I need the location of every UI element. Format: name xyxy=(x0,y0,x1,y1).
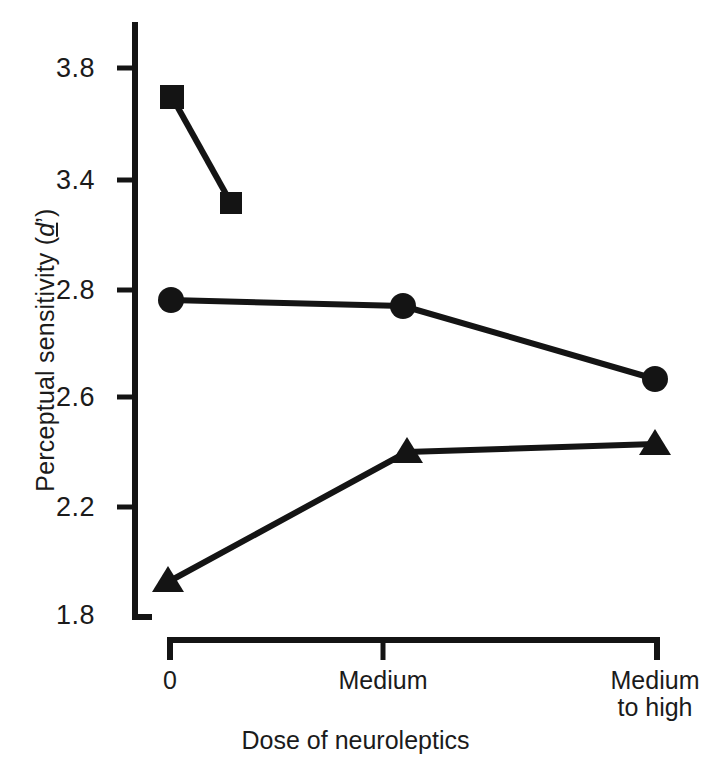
x-axis-title: Dose of neuroleptics xyxy=(0,726,711,755)
marker-circle-point-3 xyxy=(642,366,668,392)
y-tick-label-0: 3.8 xyxy=(5,53,95,84)
marker-circle-point-2 xyxy=(390,293,416,319)
marker-square-point-1 xyxy=(160,85,184,109)
series-circles xyxy=(158,287,668,392)
y-tick-label-3: 2.6 xyxy=(5,382,95,413)
y-tick-label-1: 3.4 xyxy=(5,165,95,196)
x-tick-label-zero: 0 xyxy=(163,667,177,694)
x-axis xyxy=(168,637,660,660)
x-tick-label-medium-line1: Medium xyxy=(339,667,428,694)
y-tick-label-2: 2.8 xyxy=(5,275,95,306)
marker-circle-point-1 xyxy=(158,287,184,313)
chart-figure: 3.8 3.4 2.8 2.6 2.2 1.8 0 Medium Medium … xyxy=(0,0,711,767)
x-tick-label-medium-to-high: Medium to high xyxy=(611,667,700,721)
x-tick-label-medium-to-high-line1: Medium xyxy=(611,667,700,694)
series-squares xyxy=(160,85,242,214)
series-triangles-line xyxy=(168,444,655,582)
x-tick-label-zero-line1: 0 xyxy=(163,667,177,694)
x-tick-label-medium: Medium xyxy=(339,667,428,694)
x-tick-label-medium-to-high-line2: to high xyxy=(611,694,700,721)
chart-canvas xyxy=(0,0,711,767)
series-squares-line xyxy=(172,97,231,203)
y-tick-label-5: 1.8 xyxy=(5,600,95,631)
series-triangles xyxy=(152,429,671,592)
marker-square-point-2 xyxy=(220,192,242,214)
y-axis xyxy=(132,22,152,620)
y-tick-label-4: 2.2 xyxy=(5,492,95,523)
